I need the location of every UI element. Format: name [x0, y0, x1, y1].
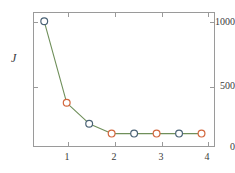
x-tick-label-3: 3 — [151, 152, 171, 162]
x-tick-mark-top-2 — [115, 13, 116, 17]
y-tick-mark-right-0 — [210, 146, 214, 147]
x-tick-label-2: 2 — [104, 152, 124, 162]
y-tick-mark-500 — [34, 87, 38, 88]
y-axis-label: J — [11, 52, 16, 64]
x-tick-label-4: 4 — [197, 152, 217, 162]
x-tick-mark-1 — [68, 142, 69, 146]
x-tick-label-1: 1 — [57, 152, 77, 162]
x-tick-mark-3 — [162, 142, 163, 146]
x-tick-mark-2 — [115, 142, 116, 146]
y-tick-mark-1000 — [34, 22, 38, 23]
plot-area — [33, 12, 215, 147]
y-tick-mark-right-1000 — [210, 22, 214, 23]
x-tick-mark-top-3 — [162, 13, 163, 17]
x-tick-mark-4 — [208, 142, 209, 146]
y-tick-mark-right-500 — [210, 87, 214, 88]
x-tick-mark-top-4 — [208, 13, 209, 17]
y-tick-mark-0 — [34, 146, 38, 147]
x-tick-mark-top-1 — [68, 13, 69, 17]
chart-figure: J 1000 500 0 1 2 3 4 — [0, 0, 235, 173]
